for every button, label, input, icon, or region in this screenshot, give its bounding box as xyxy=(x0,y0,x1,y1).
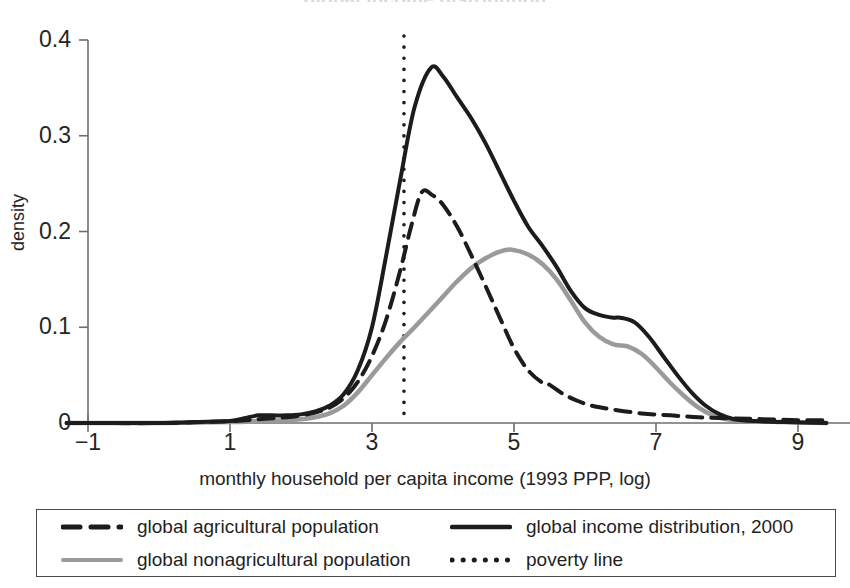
x-axis-tick-label: −1 xyxy=(58,431,118,454)
y-axis-tick-label: 0.1 xyxy=(0,315,71,338)
legend-item[interactable]: poverty line xyxy=(436,549,835,571)
legend-swatch-dotted-line-icon xyxy=(450,553,512,567)
legend-swatch-dashed-line-icon xyxy=(61,520,123,534)
legend-label: poverty line xyxy=(526,549,623,571)
series-line-global-nonagricultural-population xyxy=(67,250,827,424)
plot-area: 00.10.20.30.4 −113579 density xyxy=(0,0,850,460)
legend-item[interactable]: global agricultural population xyxy=(37,516,436,538)
series-line-global-income-distribution-2000 xyxy=(67,66,827,423)
legend-label: global nonagricultural population xyxy=(137,549,411,571)
legend-label: global agricultural population xyxy=(137,516,379,538)
series-line-global-agricultural-population xyxy=(67,190,827,423)
legend-swatch-solid-line-icon xyxy=(61,553,123,567)
legend: global agricultural populationglobal inc… xyxy=(36,509,836,577)
x-axis-label: monthly household per capita income (199… xyxy=(0,468,850,490)
density-plot-svg xyxy=(0,0,850,460)
y-axis-tick-label: 0.3 xyxy=(0,124,71,147)
x-axis-tick-label: 3 xyxy=(342,431,402,454)
x-axis-tick-label: 9 xyxy=(768,431,828,454)
x-axis-tick-label: 1 xyxy=(200,431,260,454)
legend-swatch-solid-line-icon xyxy=(450,520,512,534)
x-axis-tick-label: 7 xyxy=(626,431,686,454)
y-axis-label: density xyxy=(8,163,29,283)
legend-item[interactable]: global income distribution, 2000 xyxy=(436,516,835,538)
figure-container: global income distribution 00.10.20.30.4… xyxy=(0,0,850,588)
x-axis-tick-label: 5 xyxy=(484,431,544,454)
legend-label: global income distribution, 2000 xyxy=(526,516,793,538)
legend-item[interactable]: global nonagricultural population xyxy=(37,549,436,571)
y-axis-tick-label: 0.4 xyxy=(0,28,71,51)
